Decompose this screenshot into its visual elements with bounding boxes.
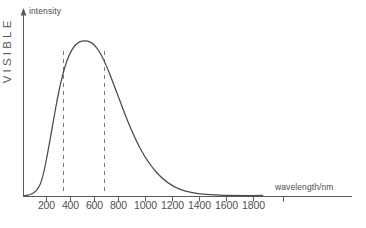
visible-band-dashed-lines <box>64 51 105 193</box>
x-tick-label: 1800 <box>242 199 265 211</box>
y-axis <box>21 8 27 197</box>
x-tick-label: 1600 <box>215 199 238 211</box>
x-axis-label: wavelength/nm <box>275 183 333 192</box>
x-axis-tick-labels: 200 400 600 800 1000 1200 1400 1600 1800 <box>0 199 366 215</box>
x-tick-label: 800 <box>110 199 127 211</box>
x-tick-label: 1000 <box>134 199 157 211</box>
x-tick-label: 1200 <box>161 199 184 211</box>
y-axis-label: intensity <box>29 7 61 16</box>
spectrum-curve <box>24 41 263 196</box>
x-tick-label: 600 <box>86 199 103 211</box>
visible-band-label: VISIBLE <box>0 45 59 59</box>
x-tick-label: 400 <box>62 199 79 211</box>
chart-plot-area <box>0 0 366 228</box>
x-tick-label: 1400 <box>188 199 211 211</box>
spectrum-chart-figure: intensity wavelength/nm VISIBLE 200 400 … <box>0 0 366 228</box>
x-tick-label: 200 <box>38 199 55 211</box>
visible-band-label-text: VISIBLE <box>1 17 13 83</box>
